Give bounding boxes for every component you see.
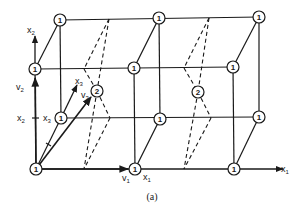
node-back-right-top: 1 [253, 11, 265, 23]
svg-text:1: 1 [59, 114, 64, 123]
diagram-canvas: 1 1 1 1 1 1 1 1 1 1 1 1 2 2 x2 v2 x3 v3 … [0, 0, 303, 210]
x1-tick-label: x1 [143, 172, 152, 183]
node-back-left-top: 1 [54, 14, 66, 26]
node-v1: 1 [129, 163, 141, 175]
svg-text:1: 1 [34, 165, 39, 174]
svg-text:1: 1 [157, 14, 162, 23]
svg-text:1: 1 [133, 165, 138, 174]
node-origin: 1 [30, 163, 42, 175]
node-back-right-low: 1 [253, 111, 265, 123]
v3-label: v3 [81, 90, 90, 101]
x3-tick-label: x3 [43, 113, 52, 124]
node-left-mid: 1 [29, 63, 41, 75]
v2-vector [35, 78, 36, 169]
lattice-diagram: 1 1 1 1 1 1 1 1 1 1 1 1 2 2 x2 v2 x3 v3 … [0, 0, 303, 210]
vectors [32, 78, 128, 169]
v3-vector [36, 97, 91, 169]
node-v3: 2 [91, 85, 103, 97]
x3-axis-label: x3 [75, 76, 84, 87]
svg-text:1: 1 [231, 63, 236, 72]
v2-label: v2 [16, 82, 25, 93]
x2-tick-label: x2 [17, 113, 26, 124]
svg-text:2: 2 [196, 88, 201, 97]
svg-text:1: 1 [58, 16, 63, 25]
origin-to-back [36, 118, 61, 169]
depth-edges [35, 17, 259, 169]
svg-text:2: 2 [95, 87, 100, 96]
node-right-mid: 1 [227, 61, 239, 73]
x2-axis-label: x2 [27, 25, 36, 36]
svg-text:1: 1 [257, 113, 262, 122]
svg-text:1: 1 [232, 165, 237, 174]
figure-caption: (a) [146, 191, 157, 203]
node-bottom-right: 1 [228, 163, 240, 175]
node-back-mid-low: 1 [154, 113, 166, 125]
svg-text:1: 1 [132, 64, 137, 73]
node-center-right: 2 [192, 86, 204, 98]
v1-label: v1 [122, 173, 131, 184]
node-back-left-low: 1 [55, 112, 67, 124]
svg-text:1: 1 [33, 65, 38, 74]
svg-text:1: 1 [257, 13, 262, 22]
node-mid-mid: 1 [128, 62, 140, 74]
x1-axis-label: x1 [281, 164, 290, 175]
node-back-mid-top: 1 [153, 12, 165, 24]
svg-text:1: 1 [158, 115, 163, 124]
